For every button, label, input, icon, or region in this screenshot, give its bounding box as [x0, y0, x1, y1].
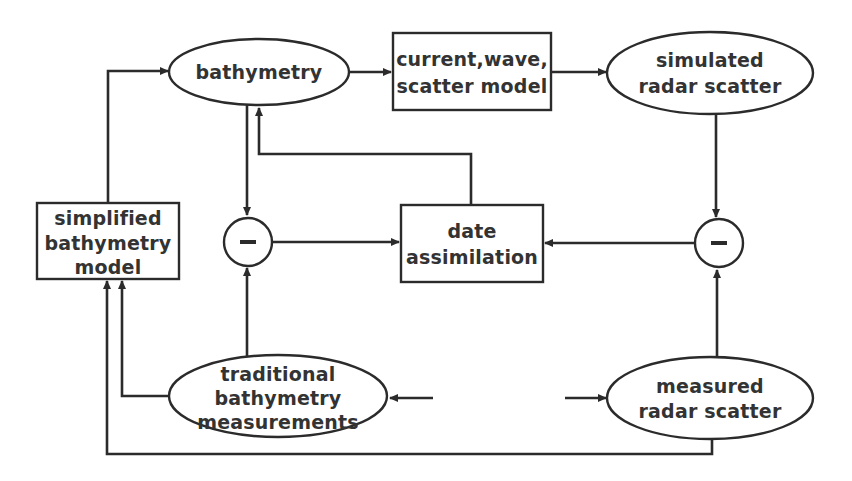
node-simplified-label-line3: model	[75, 256, 142, 278]
node-traditional-label-line3: measurements	[197, 411, 359, 433]
node-measured-label-line2: radar scatter	[638, 400, 781, 422]
node-subtract-right	[695, 219, 743, 267]
node-assimilation-label-line2: assimilation	[406, 246, 538, 268]
node-current-wave-scatter-model: current,wave, scatter model	[393, 33, 551, 110]
flowchart-svg: bathymetry current,wave, scatter model s…	[0, 0, 852, 481]
node-measured-radar-scatter: measured radar scatter	[607, 357, 813, 439]
node-measured-label-line1: measured	[656, 375, 764, 397]
node-model-label-line2: scatter model	[397, 75, 548, 97]
node-simulated-label-line2: radar scatter	[638, 75, 781, 97]
node-subtract-left	[224, 218, 272, 266]
node-traditional-label-line2: bathymetry	[215, 387, 342, 409]
node-traditional-label-line1: traditional	[220, 363, 335, 385]
node-traditional-bathymetry-measurements: traditional bathymetry measurements	[169, 355, 387, 437]
node-bathymetry-label: bathymetry	[196, 61, 323, 83]
node-model-label-line1: current,wave,	[396, 48, 548, 70]
edge-traditional-to-simplified	[122, 281, 169, 396]
node-assimilation-label-line1: date	[447, 220, 496, 242]
edge-simplified-to-bathymetry	[108, 71, 168, 203]
node-simplified-label-line1: simplified	[54, 207, 162, 229]
node-bathymetry: bathymetry	[169, 39, 349, 105]
minus-icon	[240, 240, 256, 244]
node-simplified-bathymetry-model: simplified bathymetry model	[37, 203, 179, 279]
node-simulated-label-line1: simulated	[656, 49, 764, 71]
diagram-canvas: bathymetry current,wave, scatter model s…	[0, 0, 852, 481]
node-date-assimilation: date assimilation	[401, 205, 543, 282]
node-simulated-radar-scatter: simulated radar scatter	[607, 32, 813, 114]
node-simplified-label-line2: bathymetry	[45, 232, 172, 254]
edge-assimilation-to-bathymetry	[259, 108, 471, 205]
minus-icon	[711, 241, 727, 245]
